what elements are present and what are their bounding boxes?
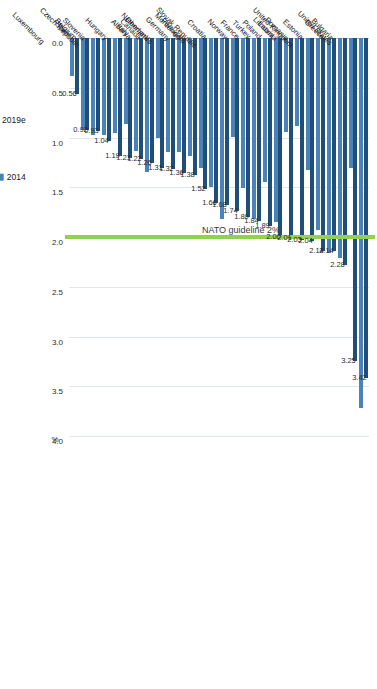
bar-2019e bbox=[118, 38, 122, 156]
bar-2019e bbox=[332, 38, 336, 251]
bar-2014 bbox=[156, 38, 160, 138]
bar-2014 bbox=[199, 38, 203, 168]
bar-2019e bbox=[246, 38, 250, 217]
nato-guideline-label: NATO guideline 2% bbox=[202, 225, 280, 235]
bar-2014 bbox=[316, 38, 320, 230]
value-label: 0.92 bbox=[73, 125, 88, 134]
axis-tick-label: 0.0 bbox=[52, 39, 63, 48]
bar-2019e bbox=[343, 38, 347, 265]
value-label: 2.28 bbox=[330, 260, 345, 269]
bar-2014 bbox=[91, 38, 95, 135]
chart-canvas: % 0.00.51.01.52.02.53.03.54.0 United Sta… bbox=[0, 0, 377, 689]
bar-2014 bbox=[134, 38, 138, 151]
gridline bbox=[69, 436, 369, 437]
bar-2019e bbox=[171, 38, 175, 169]
bar-2019e bbox=[182, 38, 186, 173]
legend-item: 2014 bbox=[0, 172, 26, 183]
bar-2014 bbox=[263, 38, 267, 182]
bar-2019e bbox=[225, 38, 229, 205]
legend-label: 2014 bbox=[7, 172, 26, 182]
bar-2014 bbox=[188, 38, 192, 156]
bar-2014 bbox=[252, 38, 256, 219]
bar-2019e bbox=[268, 38, 272, 226]
plot-area bbox=[69, 38, 369, 436]
bar-2019e bbox=[203, 38, 207, 189]
bar-2014 bbox=[274, 38, 278, 222]
bar-2014 bbox=[359, 38, 363, 408]
nato-guideline-line bbox=[65, 235, 375, 239]
bar-2019e bbox=[160, 38, 164, 168]
value-label: 1.52 bbox=[191, 184, 206, 193]
value-label: 0.56 bbox=[63, 89, 78, 98]
bar-2014 bbox=[295, 38, 299, 126]
bar-chart: % 0.00.51.01.52.02.53.03.54.0 United Sta… bbox=[0, 0, 377, 689]
bar-2014 bbox=[102, 38, 106, 135]
bar-2019e bbox=[96, 38, 100, 131]
axis-tick-label: 2.0 bbox=[52, 238, 63, 247]
value-label: 2.14 bbox=[309, 246, 324, 255]
value-label: 3.42 bbox=[352, 373, 367, 382]
bar-2019e bbox=[364, 38, 368, 378]
bar-2019e bbox=[289, 38, 293, 238]
bar-2019e bbox=[107, 38, 111, 141]
bar-2019e bbox=[85, 38, 89, 130]
value-label: 1.19 bbox=[105, 151, 120, 160]
axis-tick-label: 4.0 bbox=[52, 437, 63, 446]
bar-2019e bbox=[278, 38, 282, 237]
bar-2019e bbox=[310, 38, 314, 241]
axis-tick-label: 2.5 bbox=[52, 288, 63, 297]
bar-2019e bbox=[257, 38, 261, 221]
bar-2014 bbox=[284, 38, 288, 132]
legend-swatch-icon bbox=[0, 174, 4, 181]
bar-2019e bbox=[214, 38, 218, 203]
bar-2014 bbox=[231, 38, 235, 137]
bar-2014 bbox=[145, 38, 149, 172]
bar-2014 bbox=[209, 38, 213, 187]
bar-2014 bbox=[124, 38, 128, 124]
bar-2019e bbox=[150, 38, 154, 163]
bar-2014 bbox=[306, 38, 310, 170]
legend-item: 2019e bbox=[0, 114, 26, 125]
value-label: 1.04 bbox=[95, 136, 110, 145]
bar-2014 bbox=[220, 38, 224, 219]
bar-2014 bbox=[349, 38, 353, 168]
axis-tick-label: 3.0 bbox=[52, 338, 63, 347]
bar-2019e bbox=[128, 38, 132, 158]
bar-2019e bbox=[235, 38, 239, 211]
bar-2014 bbox=[166, 38, 170, 152]
bar-2019e bbox=[300, 38, 304, 240]
axis-tick-label: 1.0 bbox=[52, 139, 63, 148]
value-label: 3.25 bbox=[341, 356, 356, 365]
bar-2019e bbox=[321, 38, 325, 251]
bar-2014 bbox=[241, 38, 245, 188]
axis-tick-label: 3.5 bbox=[52, 387, 63, 396]
bar-2014 bbox=[327, 38, 331, 253]
bar-2014 bbox=[338, 38, 342, 258]
bar-2019e bbox=[193, 38, 197, 175]
legend-label: 2019e bbox=[2, 115, 26, 125]
value-label: 1.66 bbox=[202, 198, 217, 207]
axis-tick-label: 1.5 bbox=[52, 188, 63, 197]
bar-2019e bbox=[139, 38, 143, 159]
bar-2014 bbox=[81, 38, 85, 130]
bar-2014 bbox=[177, 38, 181, 152]
bar-2014 bbox=[113, 38, 117, 133]
bar-2019e bbox=[353, 38, 357, 361]
